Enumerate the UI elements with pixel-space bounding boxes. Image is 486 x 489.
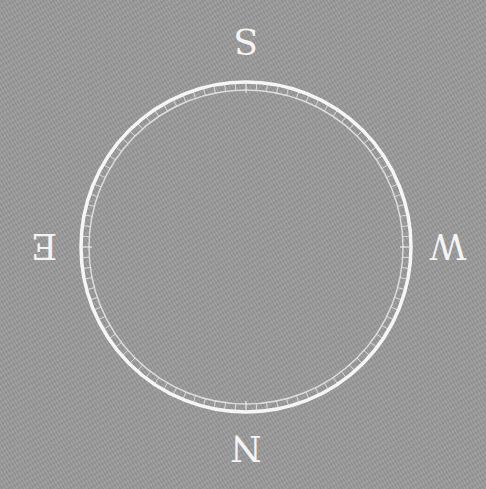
tick-mark <box>109 334 116 338</box>
tick-mark <box>357 358 363 364</box>
compass-rose: N E S W <box>0 0 486 489</box>
tick-mark <box>129 130 135 136</box>
direction-south: S <box>234 21 259 62</box>
tick-mark <box>103 326 110 330</box>
tick-mark <box>115 147 121 152</box>
inner-ring <box>89 90 403 404</box>
tick-mark <box>164 383 168 390</box>
direction-north: N <box>230 428 262 469</box>
tick-mark <box>403 236 411 237</box>
tick-mark <box>403 257 411 258</box>
tick-mark <box>146 116 151 122</box>
tick-mark <box>377 155 384 159</box>
tick-mark <box>256 82 257 90</box>
tick-mark <box>325 104 329 111</box>
tick-mark <box>377 334 384 338</box>
tick-mark <box>81 236 89 237</box>
tick-mark <box>256 404 257 412</box>
tick-mark <box>333 110 337 117</box>
tick-mark <box>109 155 116 159</box>
tick-mark <box>137 123 142 129</box>
tick-mark <box>103 165 110 169</box>
tick-mark <box>382 165 389 169</box>
tick-mark <box>164 104 168 111</box>
tick-mark <box>364 351 370 356</box>
tick-mark <box>137 365 142 371</box>
tick-mark <box>325 383 329 390</box>
tick-mark <box>115 343 121 348</box>
tick-mark <box>154 378 158 385</box>
tick-mark <box>129 358 135 364</box>
tick-mark <box>382 326 389 330</box>
tick-mark <box>342 372 347 378</box>
degree-ticks <box>81 82 411 412</box>
tick-mark <box>364 138 370 143</box>
tick-mark <box>146 372 151 378</box>
tick-mark <box>122 351 128 356</box>
tick-mark <box>357 130 363 136</box>
tick-mark <box>342 116 347 122</box>
tick-mark <box>235 82 236 90</box>
direction-east: E <box>31 226 57 267</box>
tick-mark <box>350 123 355 129</box>
tick-mark <box>122 138 128 143</box>
tick-mark <box>371 343 377 348</box>
tick-mark <box>371 147 377 152</box>
direction-west: W <box>429 226 466 267</box>
tick-mark <box>333 378 337 385</box>
tick-mark <box>81 257 89 258</box>
tick-mark <box>350 365 355 371</box>
tick-mark <box>154 110 158 117</box>
tick-mark <box>235 404 236 412</box>
